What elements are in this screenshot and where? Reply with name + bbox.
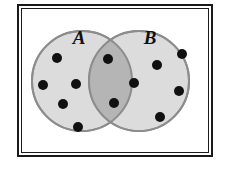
set-b-only-dot [155,112,165,122]
intersection-dot [129,78,139,88]
venn-diagram-svg: A B [0,0,227,172]
set-a-only-dot [73,122,83,132]
set-a-only-dot [52,53,62,63]
set-a-only-dot [71,79,81,89]
set-b-only-dot [152,60,162,70]
venn-diagram-figure: A B [0,0,227,172]
set-a-only-dot [38,80,48,90]
set-b-label: B [143,27,157,48]
intersection-dot [103,54,113,64]
set-b-only-dot [177,49,187,59]
set-b-only-dot [174,86,184,96]
intersection-dot [109,98,119,108]
set-a-label: A [72,27,86,48]
set-a-only-dot [58,99,68,109]
